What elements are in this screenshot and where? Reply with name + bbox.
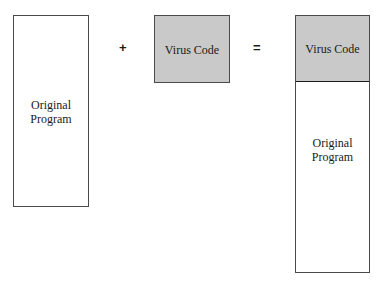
equals-operator: =	[253, 40, 261, 55]
original-program-box: Original Program	[13, 15, 89, 207]
infected-virus-code-section: Virus Code	[295, 15, 370, 83]
original-program-label: Original Program	[14, 98, 88, 126]
virus-code-label: Virus Code	[155, 43, 229, 57]
label-line-1: Original	[14, 98, 88, 112]
infected-program: Virus Code Original Program	[295, 15, 370, 273]
plus-operator: +	[119, 40, 127, 55]
label-line-2: Program	[296, 150, 369, 164]
label-line-1: Original	[296, 136, 369, 150]
virus-code-box: Virus Code	[154, 15, 230, 83]
infected-virus-code-label: Virus Code	[296, 42, 369, 56]
label-line-2: Program	[14, 112, 88, 126]
infected-original-program-label: Original Program	[296, 136, 369, 164]
infected-original-program-section: Original Program	[295, 82, 370, 273]
